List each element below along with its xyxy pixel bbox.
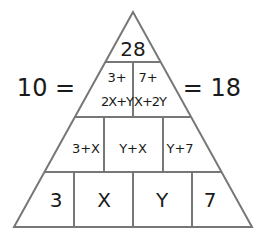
top-cell-value: 28 bbox=[120, 39, 145, 59]
right-equation: = 18 bbox=[183, 76, 241, 100]
row3-cell-3: Y+7 bbox=[166, 142, 193, 155]
row3-cell-2: Y+X bbox=[119, 142, 147, 155]
row2-cell-1-line2: 2X+Y bbox=[101, 95, 133, 108]
row2-cell-1-line1: 3+ bbox=[107, 71, 126, 84]
row2-cell-2-line2: X+2Y bbox=[134, 95, 166, 108]
pyramid-diagram bbox=[0, 0, 260, 239]
base-cell-3: Y bbox=[156, 190, 168, 210]
base-cell-2: X bbox=[97, 190, 111, 210]
row3-cell-1: 3+X bbox=[72, 142, 100, 155]
base-cell-4: 7 bbox=[204, 190, 217, 210]
base-cell-1: 3 bbox=[50, 190, 63, 210]
row2-cell-2-line1: 7+ bbox=[138, 71, 157, 84]
left-equation: 10 = bbox=[17, 76, 75, 100]
